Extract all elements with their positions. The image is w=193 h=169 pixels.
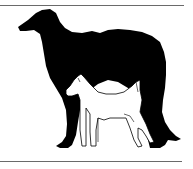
borzoi-silhouette	[18, 9, 181, 148]
bottom-rule	[0, 161, 182, 162]
dogs-illustration	[0, 0, 193, 169]
